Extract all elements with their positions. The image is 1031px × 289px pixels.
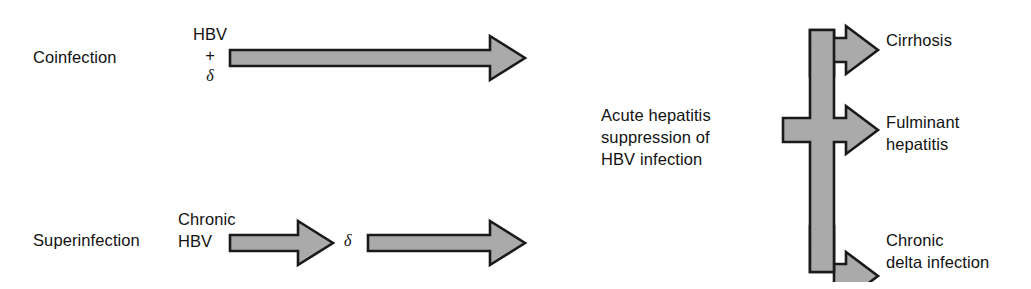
- outcome-label-chronic-delta-line-1: Chronic: [886, 230, 944, 251]
- superinfection-arrow-2: [366, 218, 528, 268]
- outcome-label-fulminant-line-2: hepatitis: [886, 134, 948, 155]
- outcome-label-chronic-delta-line-2: delta infection: [886, 252, 989, 273]
- coinfection-row-label: Coinfection: [33, 48, 117, 67]
- coinfection-agents-plus: +: [186, 45, 234, 66]
- diagram-canvas: Coinfection HBV + δ Superinfection Chron…: [0, 0, 1031, 289]
- superinfection-row-label: Superinfection: [33, 231, 140, 250]
- outcome-label-fulminant-line-1: Fulminant: [886, 112, 959, 133]
- coinfection-agents-delta: δ: [186, 66, 234, 86]
- middle-text-line-3: HBV infection: [601, 149, 702, 170]
- coinfection-arrow: [228, 33, 528, 83]
- branch-middle-fulminant: [783, 30, 878, 272]
- coinfection-agents-hbv: HBV: [186, 24, 234, 45]
- superinfection-delta-symbol: δ: [344, 232, 351, 250]
- superinfection-arrow-1: [228, 218, 336, 268]
- outcome-label-cirrhosis: Cirrhosis: [886, 30, 952, 51]
- middle-text-line-1: Acute hepatitis: [601, 105, 711, 126]
- middle-text-line-2: suppression of: [601, 127, 710, 148]
